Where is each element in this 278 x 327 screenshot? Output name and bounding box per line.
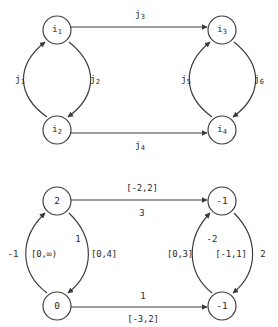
node-value-top-right: -1 (216, 196, 227, 206)
edge-interval-f4: [-3,2] (127, 315, 158, 324)
edge-j6 (233, 42, 256, 117)
node-value-bottom-left: 0 (54, 301, 60, 311)
node-label-i3: i3 (217, 24, 227, 36)
node-value-top-left: 2 (54, 196, 60, 206)
edge-cost-f6-head: -2 (207, 235, 218, 244)
edge-j5 (189, 42, 212, 117)
edge-cost-f1: -1 (8, 250, 19, 259)
edge-interval-f3: [-2,2] (126, 184, 157, 193)
edge-label-j3: j3 (135, 9, 145, 21)
edge-interval-f5: [0,3] (167, 250, 193, 259)
edge-interval-f1: [0,∞) (31, 250, 57, 259)
top-graph-nodes (43, 16, 236, 144)
edge-interval-f6: [-1,1] (215, 250, 246, 259)
edge-label-j6: j6 (254, 74, 264, 86)
node-label-i4: i4 (217, 124, 227, 136)
node-label-i1: i1 (52, 24, 62, 36)
edge-interval-f2: [0,4] (91, 250, 117, 259)
node-value-bottom-right: -1 (216, 301, 227, 311)
edge-cost-f6-tail: 2 (260, 250, 265, 259)
edge-label-j5: j5 (181, 74, 191, 86)
edge-label-j2: j2 (90, 74, 100, 86)
edge-cost-f3: 3 (139, 209, 144, 218)
graph-canvas (0, 0, 278, 327)
edge-label-j1: j1 (15, 74, 25, 86)
edge-label-j4: j4 (135, 140, 145, 152)
edge-f2 (68, 213, 88, 293)
node-label-i2: i2 (52, 124, 62, 136)
edge-f5 (192, 213, 212, 293)
edge-j1 (23, 42, 47, 117)
edge-j2 (68, 42, 91, 117)
graph-figure: i1 i2 i3 i4 j1 j2 j3 j4 j5 j6 2 0 -1 -1 … (0, 0, 278, 327)
edge-cost-f2: 1 (75, 235, 80, 244)
edge-cost-f4: 1 (140, 292, 145, 301)
